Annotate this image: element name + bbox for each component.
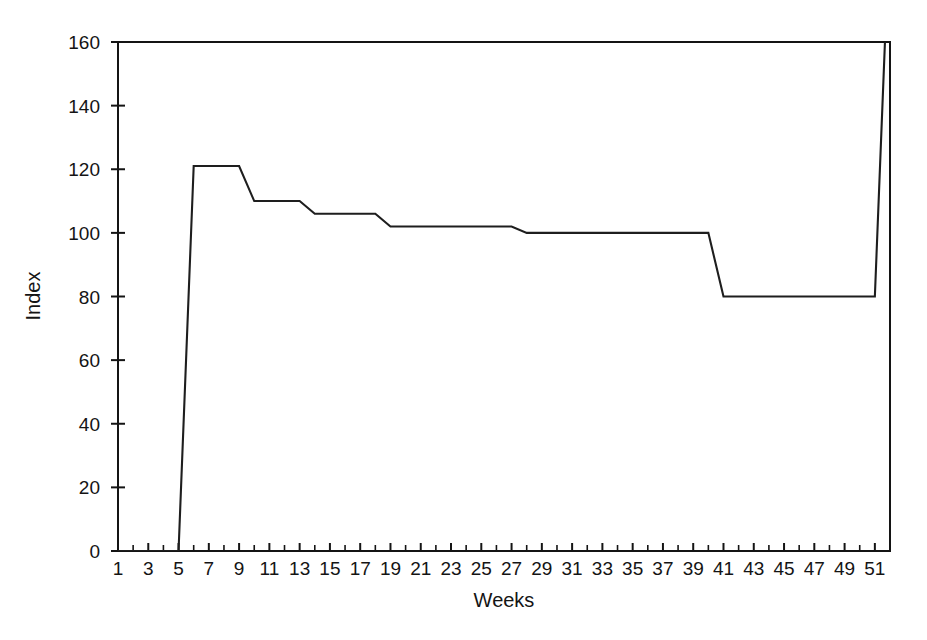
- y-tick-label: 140: [68, 96, 100, 117]
- x-tick-label: 23: [440, 558, 461, 579]
- x-tick-label: 41: [713, 558, 734, 579]
- line-chart-svg: 020406080100120140160 135791113151719212…: [0, 0, 927, 640]
- chart-figure: 020406080100120140160 135791113151719212…: [0, 0, 927, 640]
- x-tick-label: 7: [204, 558, 215, 579]
- y-tick-label: 160: [68, 32, 100, 53]
- x-tick-label: 13: [289, 558, 310, 579]
- y-tick-label: 60: [79, 350, 100, 371]
- y-tick-label: 0: [89, 541, 100, 562]
- chart-background: [0, 0, 927, 640]
- x-tick-label: 17: [350, 558, 371, 579]
- x-tick-label: 47: [804, 558, 825, 579]
- x-tick-label: 33: [592, 558, 613, 579]
- x-tick-label: 1: [113, 558, 124, 579]
- x-tick-label: 29: [531, 558, 552, 579]
- x-tick-label: 25: [471, 558, 492, 579]
- x-tick-label: 43: [743, 558, 764, 579]
- y-tick-label: 20: [79, 477, 100, 498]
- y-tick-label: 100: [68, 223, 100, 244]
- x-axis-title: Weeks: [474, 589, 535, 611]
- x-tick-label: 37: [652, 558, 673, 579]
- x-tick-label: 35: [622, 558, 643, 579]
- x-tick-label: 39: [683, 558, 704, 579]
- x-tick-label: 5: [173, 558, 184, 579]
- x-tick-label: 31: [562, 558, 583, 579]
- x-tick-label: 9: [234, 558, 245, 579]
- x-tick-label: 11: [260, 558, 280, 579]
- x-tick-label: 19: [380, 558, 401, 579]
- x-tick-label: 3: [143, 558, 154, 579]
- x-tick-label: 15: [319, 558, 340, 579]
- x-tick-label: 21: [410, 558, 431, 579]
- y-tick-label: 80: [79, 287, 100, 308]
- x-tick-label: 51: [864, 558, 885, 579]
- x-tick-label: 27: [501, 558, 522, 579]
- x-tick-label: 49: [834, 558, 855, 579]
- y-tick-label: 120: [68, 159, 100, 180]
- y-axis-title: Index: [22, 272, 44, 321]
- x-tick-label: 45: [773, 558, 794, 579]
- y-tick-label: 40: [79, 414, 100, 435]
